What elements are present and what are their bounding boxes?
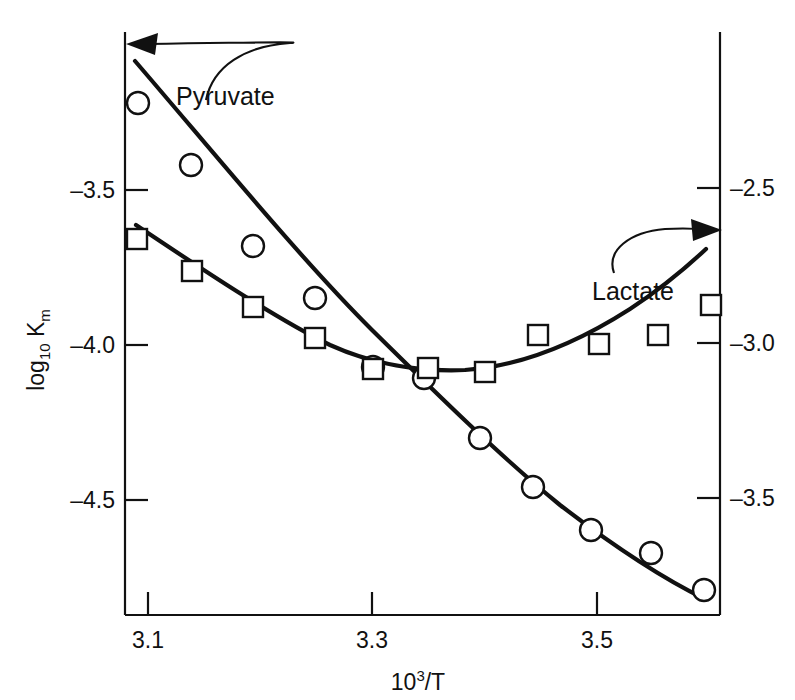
data-point-square — [127, 229, 147, 249]
pyruvate-fit-curve — [135, 61, 705, 599]
axis-lines — [125, 32, 720, 615]
data-point-square — [305, 328, 325, 348]
pyruvate-annotation: Pyruvate — [126, 33, 293, 110]
pyruvate-label: Pyruvate — [176, 82, 275, 110]
data-point-square — [589, 334, 609, 354]
x-tick-label: 3.3 — [356, 627, 388, 653]
lactate-label: Lactate — [592, 277, 674, 305]
right-tick-label: –2.5 — [730, 175, 775, 201]
x-axis-title-main: 10 — [391, 669, 417, 695]
data-point-square — [528, 325, 548, 345]
pyruvate-data-points — [127, 92, 715, 601]
data-point-square — [418, 358, 438, 378]
x-tick-label: 3.5 — [581, 627, 613, 653]
svg-text:log10 Km: log10 Km — [23, 309, 53, 391]
data-point-square — [182, 261, 202, 281]
data-point-square — [475, 362, 495, 382]
right-tick-label: –3.5 — [730, 485, 775, 511]
x-axis-title-superscript: 3 — [416, 667, 424, 684]
data-point-square — [701, 295, 721, 315]
left-tick-label: –4.5 — [70, 487, 115, 513]
data-point-circle — [522, 476, 544, 498]
lactate-arrow-head — [691, 219, 722, 241]
x-tick-label: 3.1 — [132, 627, 164, 653]
y-axis-title-var-subscript: m — [36, 309, 53, 322]
bottom-axis-ticks: 3.1 3.3 3.5 — [132, 592, 613, 653]
data-point-square — [363, 359, 383, 379]
data-point-square — [648, 325, 668, 345]
data-point-circle — [242, 235, 264, 257]
y-axis-title-subscript: 10 — [36, 343, 53, 360]
figure-container: –3.5 –4.0 –4.5 –2.5 –3.0 –3.5 3.1 3.3 3.… — [0, 0, 795, 700]
y-axis-title-var: K — [23, 321, 49, 343]
data-point-circle — [180, 154, 202, 176]
data-point-circle — [640, 542, 662, 564]
left-tick-label: –4.0 — [70, 332, 115, 358]
y-axis-title: log10 Km — [23, 309, 53, 391]
data-point-square — [243, 297, 263, 317]
y-axis-title-main: log — [23, 360, 49, 391]
right-tick-label: –3.0 — [730, 330, 775, 356]
data-point-circle — [693, 579, 715, 601]
pyruvate-arrow-head — [126, 33, 158, 55]
lactate-annotation: Lactate — [592, 219, 722, 305]
data-point-circle — [304, 287, 326, 309]
arrhenius-plot: –3.5 –4.0 –4.5 –2.5 –3.0 –3.5 3.1 3.3 3.… — [0, 0, 795, 700]
x-axis-title-tail: /T — [425, 669, 445, 695]
data-point-circle — [580, 519, 602, 541]
fit-curves — [135, 61, 706, 599]
x-axis-title: 103/T — [391, 667, 445, 695]
svg-text:103/T: 103/T — [391, 667, 445, 695]
data-point-circle — [469, 427, 491, 449]
data-point-circle — [127, 92, 149, 114]
left-tick-label: –3.5 — [70, 177, 115, 203]
lactate-arrow-curve — [612, 229, 706, 273]
